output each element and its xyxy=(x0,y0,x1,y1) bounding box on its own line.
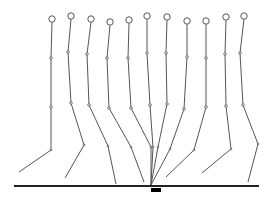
hip-joint xyxy=(86,53,89,56)
hip-joint xyxy=(50,57,53,60)
thigh-segment xyxy=(166,53,167,104)
head-circle xyxy=(68,13,74,19)
shank-segment xyxy=(150,105,153,147)
stick-figure xyxy=(144,13,154,185)
stick-figure xyxy=(166,18,209,177)
head-circle xyxy=(107,19,113,25)
foot-segment xyxy=(248,144,258,182)
knee-joint xyxy=(130,146,132,148)
thigh-segment xyxy=(68,52,71,103)
shank-segment xyxy=(170,109,184,149)
foot-segment xyxy=(202,149,231,173)
thigh-segment xyxy=(147,53,150,105)
hip-joint xyxy=(224,53,227,56)
torso-segment xyxy=(240,19,244,53)
thigh-segment xyxy=(240,53,243,105)
hip-joint xyxy=(106,57,109,60)
gait-diagram xyxy=(0,0,273,206)
stick-figures xyxy=(19,13,259,185)
mid-joint xyxy=(108,107,111,110)
head-circle xyxy=(144,13,150,19)
torso-segment xyxy=(107,25,110,58)
foot-segment xyxy=(19,150,51,172)
contact-marker xyxy=(151,188,161,192)
knee-joint xyxy=(157,146,159,148)
thigh-segment xyxy=(184,57,187,109)
shank-segment xyxy=(158,104,167,147)
hip-joint xyxy=(127,57,130,60)
thigh-segment xyxy=(128,58,131,108)
head-circle xyxy=(203,18,209,24)
knee-joint xyxy=(169,148,171,150)
hip-joint xyxy=(205,57,208,60)
foot-segment xyxy=(131,147,144,182)
thigh-segment xyxy=(87,54,89,105)
shank-segment xyxy=(131,108,151,147)
stick-figure xyxy=(65,13,85,178)
shank-segment xyxy=(226,106,231,149)
mid-joint xyxy=(242,104,245,107)
shank-segment xyxy=(109,108,131,147)
hip-joint xyxy=(67,51,70,54)
knee-joint xyxy=(83,144,85,146)
stick-figure xyxy=(151,14,170,185)
hip-joint xyxy=(146,52,149,55)
torso-segment xyxy=(166,20,167,53)
shank-segment xyxy=(71,103,84,145)
mid-joint xyxy=(70,102,73,105)
mid-joint xyxy=(50,106,53,109)
knee-joint xyxy=(230,148,232,150)
stick-figure xyxy=(106,19,144,182)
mid-joint xyxy=(166,103,169,106)
torso-segment xyxy=(51,22,52,58)
knee-joint xyxy=(193,149,195,151)
foot-segment xyxy=(108,146,116,184)
foot-segment xyxy=(65,145,84,178)
torso-segment xyxy=(68,19,71,52)
knee-joint xyxy=(150,146,152,148)
head-circle xyxy=(184,18,190,24)
torso-segment xyxy=(128,23,129,58)
shank-segment xyxy=(194,107,206,150)
shank-segment xyxy=(89,105,108,146)
head-circle xyxy=(223,14,229,20)
thigh-segment xyxy=(225,54,226,106)
shank-segment xyxy=(243,105,258,144)
knee-joint xyxy=(107,145,109,147)
mid-joint xyxy=(88,104,91,107)
head-circle xyxy=(49,16,55,22)
head-circle xyxy=(88,16,94,22)
knee-joint xyxy=(152,146,154,148)
stick-figure xyxy=(19,16,55,172)
knee-joint xyxy=(257,143,259,145)
head-circle xyxy=(126,17,132,23)
stick-figure xyxy=(126,17,152,185)
mid-joint xyxy=(130,107,133,110)
head-circle xyxy=(164,14,170,20)
mid-joint xyxy=(205,106,208,109)
foot-segment xyxy=(166,150,194,177)
mid-joint xyxy=(149,104,152,107)
mid-joint xyxy=(183,108,186,111)
stick-figure xyxy=(239,13,259,182)
thigh-segment xyxy=(107,58,109,108)
hip-joint xyxy=(165,52,168,55)
mid-joint xyxy=(225,105,228,108)
hip-joint xyxy=(239,52,242,55)
head-circle xyxy=(241,13,247,19)
knee-joint xyxy=(50,149,52,151)
diagram-canvas xyxy=(0,0,273,206)
stick-figure xyxy=(86,16,116,184)
torso-segment xyxy=(87,22,91,54)
torso-segment xyxy=(225,20,226,54)
hip-joint xyxy=(186,56,189,59)
